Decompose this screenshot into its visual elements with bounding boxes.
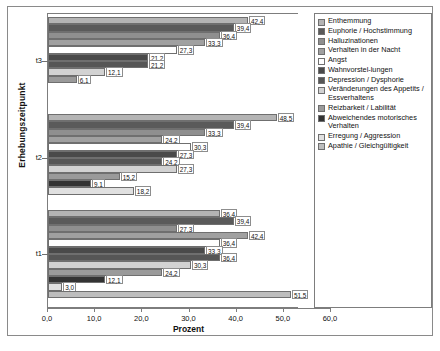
bar-row: 21,2: [48, 54, 298, 61]
y-axis-tick-label-t1: t1: [28, 249, 42, 258]
legend-item[interactable]: Halluzinationen: [318, 37, 429, 46]
bar-row: 6,1: [48, 76, 298, 83]
bar-row: 18,2: [48, 187, 298, 194]
bar-t1[interactable]: [48, 210, 220, 217]
bar-row: 39,4: [48, 121, 298, 128]
x-axis-tick-label: 10,0: [87, 314, 102, 323]
bar-t2[interactable]: [48, 165, 177, 172]
bar-row: 36,4: [48, 239, 298, 246]
bar-row: 24,2: [48, 269, 298, 276]
bar-row: [48, 195, 298, 202]
bar-t3[interactable]: [48, 61, 148, 68]
legend-item[interactable]: Veränderungen des Appetits / Essverhalte…: [318, 85, 429, 102]
legend-label: Verhalten in der Nacht: [328, 46, 400, 55]
bar-t2[interactable]: [48, 143, 191, 150]
legend-label: Angst: [328, 56, 347, 65]
legend-label: Wahnvorstel-​lungen: [328, 66, 393, 75]
bar-row: 15,2: [48, 173, 298, 180]
bar-t1[interactable]: [48, 269, 162, 276]
bar-row: 36,4: [48, 32, 298, 39]
bar-t1[interactable]: [48, 225, 177, 232]
legend-swatch-icon: [318, 38, 325, 45]
bar-t2[interactable]: [48, 173, 120, 180]
x-axis-title: Prozent: [47, 324, 330, 334]
bar-t2[interactable]: [48, 136, 162, 143]
bar-t2[interactable]: [48, 187, 134, 194]
bar-t1[interactable]: [48, 291, 291, 298]
bar-t1[interactable]: [48, 247, 205, 254]
x-axis-tick: [236, 308, 237, 312]
bar-t1[interactable]: [48, 276, 105, 283]
x-axis: 0,010,020,030,040,050,060,0: [47, 308, 330, 309]
bar-row: 36,4: [48, 210, 298, 217]
bar-t3[interactable]: [48, 68, 105, 75]
legend-swatch-icon: [318, 19, 325, 26]
chart-root: Erhebungszeitpunkt 42,439,436,433,327,32…: [0, 0, 440, 351]
bar-t3[interactable]: [48, 24, 234, 31]
legend-item[interactable]: Euphorie / Hochstimmung: [318, 27, 429, 36]
legend-label: Veränderungen des Appetits / Essverhalte…: [328, 85, 429, 102]
x-axis-tick-label: 30,0: [181, 314, 196, 323]
x-axis-tick: [94, 308, 95, 312]
legend-swatch-icon: [318, 77, 325, 84]
bar-row: 3,0: [48, 283, 298, 290]
legend-swatch-icon: [318, 134, 325, 141]
bar-t1[interactable]: [48, 232, 248, 239]
bar-row: 24,2: [48, 136, 298, 143]
bar-row: [48, 98, 298, 105]
bar-row: 21,2: [48, 61, 298, 68]
bar-t2[interactable]: [48, 180, 91, 187]
bar-t3[interactable]: [48, 54, 148, 61]
bar-group-t2: 48,539,433,324,230,327,324,227,315,29,11…: [48, 114, 298, 202]
bar-t2[interactable]: [48, 158, 162, 165]
legend-item[interactable]: Verhalten in der Nacht: [318, 46, 429, 55]
legend-item[interactable]: Wahnvorstel-​lungen: [318, 66, 429, 75]
bar-row: 33,3: [48, 247, 298, 254]
bar-row: 39,4: [48, 217, 298, 224]
x-axis-tick-label: 0,0: [42, 314, 52, 323]
bar-row: 51,5: [48, 291, 298, 298]
legend-label: Erregung / Aggression: [328, 132, 400, 141]
x-axis-tick-label: 40,0: [228, 314, 243, 323]
x-axis-tick: [330, 308, 331, 312]
bar-t1[interactable]: [48, 217, 234, 224]
legend-label: Enthemmung: [328, 17, 371, 26]
legend-item[interactable]: Apathie / Gleichgültigkeit: [318, 142, 429, 151]
bar-group-t1: 36,439,427,342,436,433,336,430,324,212,1…: [48, 210, 298, 298]
bar-t3[interactable]: [48, 32, 220, 39]
legend-label: Depression / Dysphorie: [328, 76, 404, 85]
legend-item[interactable]: Abweichendes motorisches Verhalten: [318, 114, 429, 131]
bar-t2[interactable]: [48, 129, 205, 136]
legend-item[interactable]: Erregung / Aggression: [318, 132, 429, 141]
y-axis-tick: [42, 254, 48, 255]
legend-item[interactable]: Angst: [318, 56, 429, 65]
y-axis-tick: [42, 158, 48, 159]
bars-container: 42,439,436,433,327,321,221,212,16,1t348,…: [48, 14, 298, 307]
legend-item[interactable]: Depression / Dysphorie: [318, 76, 429, 85]
bar-row: 27,3: [48, 165, 298, 172]
bar-t3[interactable]: [48, 76, 77, 83]
x-axis-tick: [47, 308, 48, 312]
y-axis-tick-label-t2: t2: [28, 153, 42, 162]
bar-value-label: 51,5: [292, 290, 308, 299]
legend-swatch-icon: [318, 143, 325, 150]
legend: EnthemmungEuphorie / HochstimmungHalluzi…: [314, 13, 432, 308]
bar-row: 30,3: [48, 143, 298, 150]
bar-t3[interactable]: [48, 17, 248, 24]
bar-row: 42,4: [48, 232, 298, 239]
bar-row: 42,4: [48, 17, 298, 24]
bar-t1[interactable]: [48, 239, 220, 246]
bar-row: 9,1: [48, 180, 298, 187]
bar-t2[interactable]: [48, 151, 177, 158]
legend-label: Reizbarkeit / Labilität: [328, 104, 396, 113]
bar-row: 36,4: [48, 254, 298, 261]
legend-label: Apathie / Gleichgültigkeit: [328, 142, 408, 151]
bar-t1[interactable]: [48, 283, 62, 290]
bar-row: 12,1: [48, 276, 298, 283]
legend-label: Halluzinationen: [328, 37, 378, 46]
legend-item[interactable]: Enthemmung: [318, 17, 429, 26]
legend-item[interactable]: Reizbarkeit / Labilität: [318, 104, 429, 113]
legend-swatch-icon: [318, 28, 325, 35]
x-axis-tick-label: 50,0: [276, 314, 291, 323]
x-axis-tick: [189, 308, 190, 312]
